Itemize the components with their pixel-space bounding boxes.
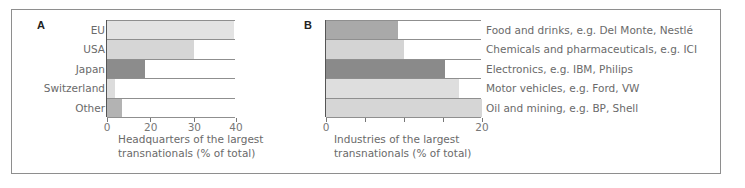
tick-label: 0 — [323, 121, 330, 133]
chart-a-xlabel-line1: Headquarters of the largest — [118, 132, 263, 146]
category-label: Switzerland — [44, 79, 105, 98]
bar — [326, 79, 459, 97]
chart-a-xlabel-line2: transnationals (% of total) — [118, 146, 263, 160]
bar — [107, 99, 122, 117]
panel-label-b: B — [304, 19, 312, 31]
bar — [107, 79, 115, 97]
bar-row: Oil and mining, e.g. BP, Shell — [326, 98, 481, 118]
bar — [107, 40, 194, 58]
chart-b-xlabel-line2: transnationals (% of total) — [334, 146, 471, 160]
bar — [326, 60, 445, 78]
category-label: Electronics, e.g. IBM, Philips — [486, 60, 633, 79]
chart-b-xlabel: Industries of the largest transnationals… — [334, 132, 471, 160]
tick-label: 20 — [475, 121, 488, 133]
bar-row: Japan — [107, 59, 235, 78]
bar-row: Switzerland — [107, 78, 235, 97]
bar — [326, 99, 482, 117]
bar-row: Food and drinks, e.g. Del Monte, Nestlé — [326, 20, 481, 39]
panel-label-a: A — [37, 19, 45, 31]
axis-tick — [404, 118, 405, 122]
category-label: Chemicals and pharmaceuticals, e.g. ICI — [486, 40, 697, 59]
category-label: Japan — [76, 60, 105, 79]
bar — [107, 60, 145, 78]
bar — [326, 21, 398, 39]
chart-a-xlabel: Headquarters of the largest transnationa… — [118, 132, 263, 160]
bar — [326, 40, 404, 58]
chart-a-plot: EUUSAJapanSwitzerlandOther0203040 — [106, 20, 235, 117]
bar-row: Other — [107, 98, 235, 118]
chart-b-plot: Food and drinks, e.g. Del Monte, NestléC… — [325, 20, 481, 117]
category-label: Motor vehicles, e.g. Ford, VW — [486, 79, 640, 98]
category-label: Food and drinks, e.g. Del Monte, Nestlé — [486, 21, 693, 40]
bar-row: Electronics, e.g. IBM, Philips — [326, 59, 481, 78]
category-label: Other — [75, 99, 105, 118]
chart-b-xlabel-line1: Industries of the largest — [334, 132, 471, 146]
bar-row: USA — [107, 39, 235, 58]
category-label: EU — [91, 21, 105, 40]
category-label: USA — [83, 40, 105, 59]
tick-label: 0 — [104, 121, 111, 133]
category-label: Oil and mining, e.g. BP, Shell — [486, 99, 638, 118]
bar-row: Chemicals and pharmaceuticals, e.g. ICI — [326, 39, 481, 58]
axis-tick — [365, 118, 366, 122]
bar — [107, 21, 234, 39]
bar-row: EU — [107, 20, 235, 39]
axis-tick — [443, 118, 444, 122]
bar-row: Motor vehicles, e.g. Ford, VW — [326, 78, 481, 97]
